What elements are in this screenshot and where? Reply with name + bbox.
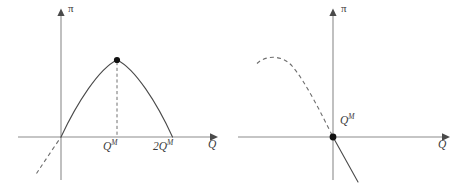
right-curve-solid-feasible (333, 137, 358, 182)
left-x-axis-label: Q (208, 139, 216, 151)
left-xtick-qm-sup: M (111, 138, 117, 147)
left-xtick-2qm-base: 2Q (153, 140, 167, 152)
left-xtick-label-2qm: 2QM (153, 141, 173, 153)
right-y-axis-label: π (341, 3, 347, 14)
chart-panel-left: π QM 2QM Q (0, 0, 230, 192)
right-point-qm-sup: M (348, 112, 354, 121)
right-point-label-qm: QM (340, 115, 355, 127)
chart-panel-right: π QM Q (230, 0, 461, 192)
left-maximum-point-marker (114, 57, 120, 63)
left-xtick-label-qm: QM (103, 141, 118, 153)
left-y-axis-arrow (57, 9, 64, 17)
left-xtick-2qm-sup: M (167, 138, 173, 147)
left-y-axis-label: π (68, 3, 74, 14)
right-y-axis-arrow (329, 9, 336, 17)
left-panel-plot (0, 0, 230, 192)
right-x-axis-label: Q (438, 139, 446, 151)
figure-container: π QM 2QM Q π QM Q (0, 0, 461, 192)
left-curve-dashed-extension (37, 137, 62, 174)
right-corner-point-marker (330, 134, 337, 141)
right-panel-plot (230, 0, 461, 192)
right-curve-dashed-infeasible (257, 57, 333, 137)
